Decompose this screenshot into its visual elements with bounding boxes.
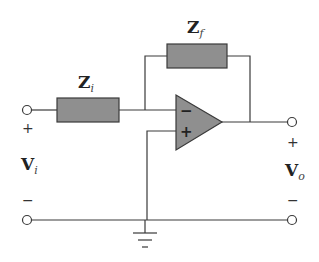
ground-icon bbox=[133, 233, 157, 247]
input-impedance-label: Zi bbox=[78, 72, 94, 95]
inverting-input-sign: − bbox=[180, 102, 193, 120]
output-minus-sign: − bbox=[287, 192, 299, 208]
output-positive-terminal bbox=[288, 118, 297, 127]
circuit-diagram: Zi Zf − + + Vi − + Vo − bbox=[0, 0, 319, 262]
output-plus-sign: + bbox=[287, 134, 299, 150]
input-minus-sign: − bbox=[22, 192, 34, 208]
feedback-impedance bbox=[167, 44, 227, 68]
output-negative-terminal bbox=[288, 216, 297, 225]
feedback-left-wire bbox=[145, 56, 167, 110]
noninverting-input-wire bbox=[147, 131, 176, 220]
input-impedance bbox=[57, 98, 119, 122]
input-voltage-label: Vi bbox=[20, 154, 38, 177]
output-voltage-label: Vo bbox=[284, 160, 305, 183]
input-positive-terminal bbox=[23, 106, 32, 115]
input-plus-sign: + bbox=[22, 120, 34, 136]
input-negative-terminal bbox=[23, 216, 32, 225]
feedback-impedance-label: Zf bbox=[187, 17, 205, 40]
wires bbox=[31, 56, 288, 233]
noninverting-input-sign: + bbox=[180, 123, 193, 141]
feedback-right-wire bbox=[227, 56, 250, 122]
